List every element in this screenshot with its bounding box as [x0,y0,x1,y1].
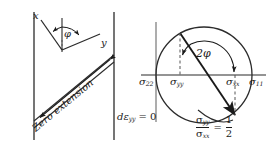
sigma-symbol: σ [249,76,256,87]
ratio-right-fraction: 1 2 [226,115,232,140]
sigma-symbol: σ [196,114,203,125]
sigma-subscript: xx [203,132,210,139]
sigma-subscript: xx [233,80,240,87]
ratio-numerator: σyy [196,115,209,126]
ratio-denominator: σxx [196,129,209,140]
epsilon-subscript: yy [129,115,136,122]
sigma-subscript: yy [177,80,184,87]
equals-zero: = 0 [139,111,157,122]
ratio-equals-sign: = [213,122,221,133]
sigma-xx-label: σxx [226,77,239,88]
sigma-subscript: 22 [146,80,153,87]
sigma-symbol: σ [139,76,146,87]
zero-strain-condition-label: dεyy = 0 [117,112,156,123]
axis-y-label: y [101,38,107,48]
ratio-value-denominator: 2 [226,129,232,140]
sigma-symbol: σ [226,76,233,87]
axis-x-arm [41,20,62,50]
stress-ratio-expression: σyy σxx = 1 2 [196,115,232,140]
angle-2phi-label: 2φ [196,48,211,59]
sigma-subscript: yy [203,118,210,125]
sigma-symbol: σ [196,128,203,139]
sigma-symbol: σ [170,76,177,87]
figure-canvas: x y φ Zero extension dεyy = 0 2φ σ22 σyy… [0,0,275,152]
mohr-pole-chord [180,33,235,115]
sigma-11-label: σ11 [249,77,263,88]
sigma-subscript: 11 [256,80,263,87]
ratio-value-numerator: 1 [226,115,232,126]
sigma-22-label: σ22 [139,77,153,88]
axis-x-label: x [33,11,39,21]
sigma-yy-label: σyy [170,77,183,88]
angle-phi-label: φ [64,29,71,39]
ratio-left-fraction: σyy σxx [196,115,209,140]
